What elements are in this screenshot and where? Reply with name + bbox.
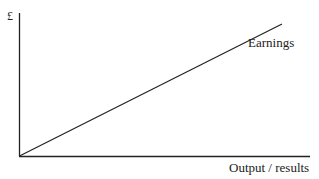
y-axis-label: £: [7, 9, 13, 24]
chart-canvas: [0, 0, 319, 179]
earnings-series-label: Earnings: [248, 35, 294, 51]
x-axis-label: Output / results: [229, 160, 309, 176]
earnings-line: [20, 24, 283, 156]
